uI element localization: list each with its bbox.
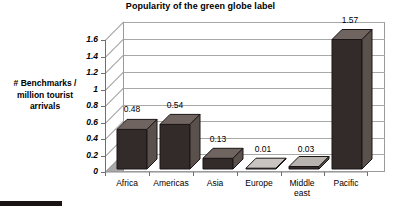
x-axis-label-pacific: Pacific: [323, 178, 369, 188]
value-label-pacific: 1.57: [330, 15, 370, 25]
x-axis-label-americas-line-1: Americas: [146, 178, 196, 188]
x-tick-4: [281, 172, 282, 176]
bar-americas: [160, 114, 200, 169]
x-axis-label-europe: Europe: [235, 178, 283, 188]
bar-asia: [203, 148, 243, 169]
x-axis-label-middle-east: Middle east: [279, 178, 325, 198]
x-axis-label-asia-line-1: Asia: [193, 178, 237, 188]
page-footer-rule: [0, 201, 62, 206]
bar-middle-east: [289, 157, 329, 170]
bar-europe: [246, 158, 286, 169]
x-tick-2: [193, 172, 194, 176]
value-label-europe: 0.01: [243, 144, 283, 154]
value-label-middle-east: 0.03: [286, 144, 326, 154]
x-axis-label-middle-east-line-1: Middle: [279, 178, 325, 188]
x-axis-label-pacific-line-1: Pacific: [323, 178, 369, 188]
plot-area: 1.6 1.4 1.2 1 0.8 0.6 0.4 0.2 0: [0, 0, 401, 211]
x-axis-label-africa-line-1: Africa: [105, 178, 149, 188]
x-tick-1: [149, 172, 150, 176]
x-tick-3: [237, 172, 238, 176]
x-axis-label-africa: Africa: [105, 178, 149, 188]
value-label-asia: 0.13: [198, 134, 238, 144]
bar-pacific: [332, 30, 372, 170]
x-axis-label-middle-east-line-2: east: [279, 188, 325, 198]
x-tick-5: [324, 172, 325, 176]
x-tick-0: [105, 172, 106, 176]
x-tick-6: [367, 172, 368, 176]
x-axis-label-asia: Asia: [193, 178, 237, 188]
value-label-americas: 0.54: [155, 100, 195, 110]
value-label-africa: 0.48: [112, 104, 152, 114]
x-axis-label-europe-line-1: Europe: [235, 178, 283, 188]
bar-africa: [117, 119, 157, 169]
x-axis-label-americas: Americas: [146, 178, 196, 188]
